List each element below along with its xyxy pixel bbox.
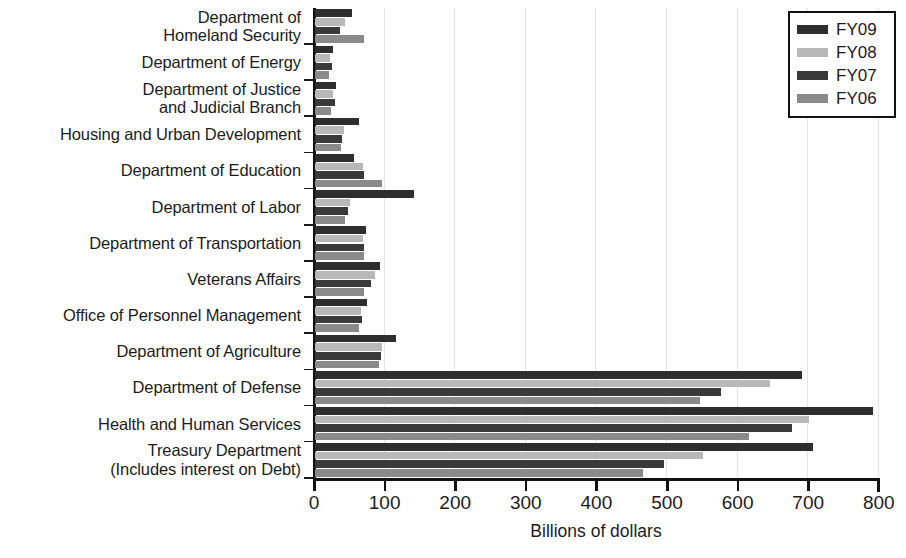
bar-fy06 bbox=[315, 180, 382, 188]
bar-fy08 bbox=[315, 452, 703, 460]
x-tick-label: 500 bbox=[651, 492, 683, 514]
x-tick-label: 800 bbox=[863, 492, 895, 514]
bar-fy07 bbox=[315, 27, 340, 35]
legend-item-fy09[interactable]: FY09 bbox=[797, 18, 888, 41]
category-label: Department of Transportation bbox=[89, 234, 301, 253]
category-tick bbox=[304, 296, 315, 298]
bar-fy09 bbox=[315, 154, 354, 162]
bar-fy08 bbox=[315, 343, 382, 351]
bar-fy06 bbox=[315, 216, 345, 224]
bar-fy08 bbox=[315, 235, 363, 243]
category-tick bbox=[304, 43, 315, 45]
category-tick bbox=[304, 224, 315, 226]
bar-fy07 bbox=[315, 135, 342, 143]
bar-fy06 bbox=[315, 361, 379, 369]
bar-fy08 bbox=[315, 199, 350, 207]
category-label: Office of Personnel Management bbox=[63, 306, 301, 325]
legend-label: FY08 bbox=[836, 44, 877, 61]
bar-fy08 bbox=[315, 18, 345, 26]
x-tick-mark bbox=[595, 478, 598, 491]
x-tick-mark bbox=[807, 478, 810, 491]
bar-chart: Department of Homeland SecurityDepartmen… bbox=[0, 0, 906, 558]
category-label: Housing and Urban Development bbox=[60, 125, 301, 144]
legend-label: FY06 bbox=[836, 90, 877, 107]
bar-fy06 bbox=[315, 288, 364, 296]
bar-fy08 bbox=[315, 126, 344, 134]
category-tick bbox=[304, 188, 315, 190]
x-axis-title: Billions of dollars bbox=[313, 521, 879, 542]
legend-swatch bbox=[797, 94, 828, 103]
x-tick-label: 600 bbox=[722, 492, 754, 514]
category-tick bbox=[304, 405, 315, 407]
bar-fy07 bbox=[315, 280, 371, 288]
bar-fy08 bbox=[315, 416, 809, 424]
legend-label: FY07 bbox=[836, 67, 877, 84]
category-label: Department of Agriculture bbox=[116, 342, 301, 361]
bar-fy09 bbox=[315, 443, 813, 451]
category-label: Health and Human Services bbox=[98, 415, 301, 434]
bar-fy06 bbox=[315, 71, 329, 79]
bar-fy09 bbox=[315, 262, 380, 270]
category-tick bbox=[304, 115, 315, 117]
x-axis-ticks: 0100200300400500600700800 bbox=[313, 478, 883, 518]
bar-fy07 bbox=[315, 460, 664, 468]
x-tick-mark bbox=[666, 478, 669, 491]
legend-label: FY09 bbox=[836, 21, 877, 38]
x-tick-label: 200 bbox=[439, 492, 471, 514]
bar-fy09 bbox=[315, 190, 414, 198]
bar-fy06 bbox=[315, 397, 700, 405]
category-tick bbox=[304, 441, 315, 443]
bar-fy07 bbox=[315, 316, 362, 324]
category-label: Department of Defense bbox=[133, 378, 302, 397]
bar-fy07 bbox=[315, 352, 381, 360]
bar-fy07 bbox=[315, 99, 335, 107]
bar-fy08 bbox=[315, 380, 770, 388]
bar-fy07 bbox=[315, 171, 364, 179]
bar-fy07 bbox=[315, 244, 364, 252]
bar-fy09 bbox=[315, 82, 336, 90]
legend-item-fy06[interactable]: FY06 bbox=[797, 87, 888, 110]
bar-fy08 bbox=[315, 307, 361, 315]
x-tick-mark bbox=[737, 478, 740, 491]
bar-fy07 bbox=[315, 388, 721, 396]
x-tick-label: 300 bbox=[510, 492, 542, 514]
bar-fy08 bbox=[315, 163, 363, 171]
bar-fy09 bbox=[315, 299, 367, 307]
legend-item-fy07[interactable]: FY07 bbox=[797, 64, 888, 87]
x-tick-mark bbox=[313, 478, 316, 491]
bar-fy06 bbox=[315, 252, 364, 260]
category-tick bbox=[304, 369, 315, 371]
bar-fy09 bbox=[315, 9, 352, 17]
x-tick-label: 400 bbox=[581, 492, 613, 514]
bar-fy07 bbox=[315, 207, 348, 215]
bar-fy09 bbox=[315, 226, 366, 234]
category-label: Department of Energy bbox=[142, 53, 301, 72]
x-tick-mark bbox=[454, 478, 457, 491]
category-label: Department of Justice and Judicial Branc… bbox=[143, 80, 301, 117]
category-label: Department of Labor bbox=[152, 198, 301, 217]
category-tick bbox=[304, 152, 315, 154]
bar-fy09 bbox=[315, 371, 802, 379]
category-label: Department of Education bbox=[121, 161, 301, 180]
category-label: Veterans Affairs bbox=[187, 270, 301, 289]
category-tick bbox=[304, 79, 315, 81]
bar-fy06 bbox=[315, 324, 359, 332]
bar-fy08 bbox=[315, 271, 375, 279]
bar-fy06 bbox=[315, 433, 749, 441]
legend-item-fy08[interactable]: FY08 bbox=[797, 41, 888, 64]
category-tick bbox=[304, 260, 315, 262]
bar-fy08 bbox=[315, 90, 333, 98]
category-axis-labels: Department of Homeland SecurityDepartmen… bbox=[0, 8, 307, 478]
x-tick-mark bbox=[878, 478, 881, 491]
bar-fy07 bbox=[315, 63, 332, 71]
bar-fy08 bbox=[315, 54, 330, 62]
legend: FY09FY08FY07FY06 bbox=[788, 11, 896, 118]
bar-fy06 bbox=[315, 107, 331, 115]
bar-fy06 bbox=[315, 144, 341, 152]
legend-swatch bbox=[797, 48, 828, 57]
category-tick bbox=[304, 332, 315, 334]
x-tick-label: 700 bbox=[792, 492, 824, 514]
bar-fy09 bbox=[315, 46, 333, 54]
legend-swatch bbox=[797, 25, 828, 34]
category-label: Treasury Department (Includes interest o… bbox=[110, 441, 301, 478]
